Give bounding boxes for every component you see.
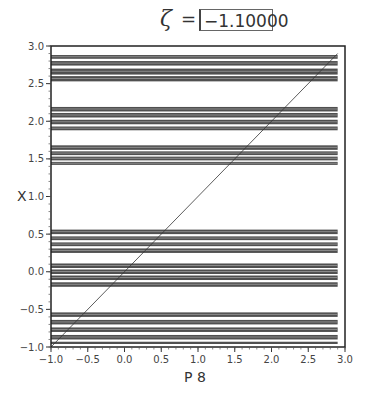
- x-tick-label: 1.0: [190, 354, 206, 365]
- y-tick-label: 2.5: [28, 78, 44, 89]
- plot-area: −1.0−0.50.00.51.01.52.02.53.0 −1.0−0.50.…: [0, 0, 375, 403]
- x-tick-label: 0.5: [153, 354, 169, 365]
- y-tick-label: 2.0: [28, 116, 44, 127]
- y-tick-label: 0.0: [28, 266, 44, 277]
- x-tick-label: 3.0: [337, 354, 353, 365]
- y-tick-label: 3.0: [28, 41, 44, 52]
- orbit-band: [51, 342, 338, 344]
- x-tick-label: 2.0: [264, 354, 280, 365]
- diagonal-reference-line: [51, 54, 338, 347]
- x-tick-label: 2.5: [300, 354, 316, 365]
- x-axis: −1.0−0.50.00.51.01.52.02.53.0: [39, 347, 353, 365]
- y-tick-label: −0.5: [20, 304, 44, 315]
- y-tick-label: 1.0: [28, 191, 44, 202]
- y-axis-label: X: [17, 188, 27, 204]
- y-tick-label: −1.0: [20, 342, 44, 353]
- x-axis-label: P 8: [184, 369, 206, 385]
- x-tick-label: 0.0: [117, 354, 133, 365]
- x-tick-label: −0.5: [76, 354, 100, 365]
- y-tick-label: 0.5: [28, 229, 44, 240]
- orbit-bands: [51, 55, 338, 344]
- x-tick-label: 1.5: [227, 354, 243, 365]
- y-tick-label: 1.5: [28, 153, 44, 164]
- x-tick-label: −1.0: [39, 354, 63, 365]
